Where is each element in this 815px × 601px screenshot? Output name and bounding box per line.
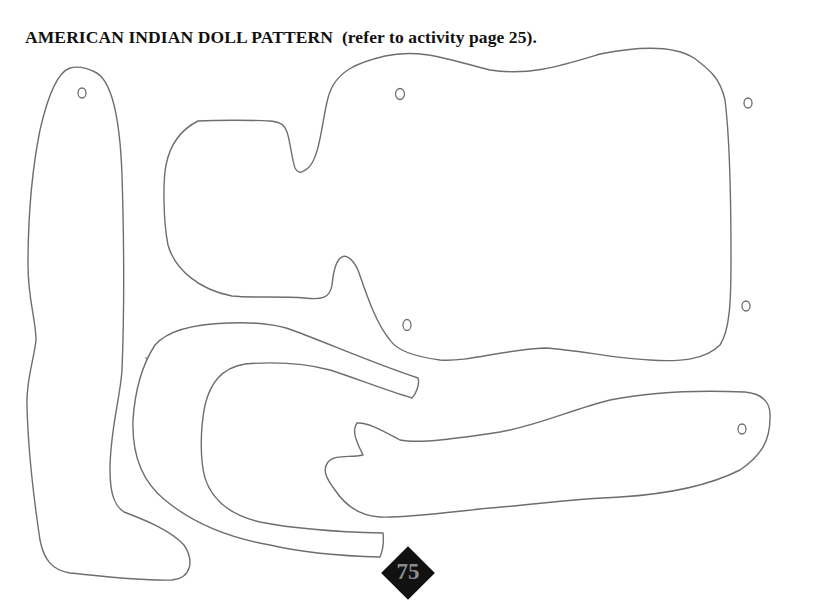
page-number: 75 [381, 559, 435, 585]
body-outline [164, 48, 731, 360]
page-number-badge: 75 [381, 546, 435, 600]
body-pattern-piece [164, 48, 752, 360]
pattern-drawing [0, 0, 815, 601]
leg-hole-icon [78, 88, 86, 98]
body-hole-icon [744, 98, 752, 108]
body-hole-icon [742, 301, 750, 311]
arm-hole-icon [738, 424, 746, 434]
pattern-page: AMERICAN INDIAN DOLL PATTERN (refer to a… [0, 0, 815, 601]
body-hole-icon [396, 89, 405, 100]
body-hole-icon [403, 320, 411, 331]
stray-dot [145, 357, 147, 359]
curved-outline [133, 323, 419, 557]
curved-pattern-piece [133, 323, 419, 557]
leg-outline [27, 67, 190, 580]
leg-pattern-piece [27, 67, 190, 580]
arm-outline [325, 391, 770, 517]
arm-pattern-piece [325, 391, 770, 517]
